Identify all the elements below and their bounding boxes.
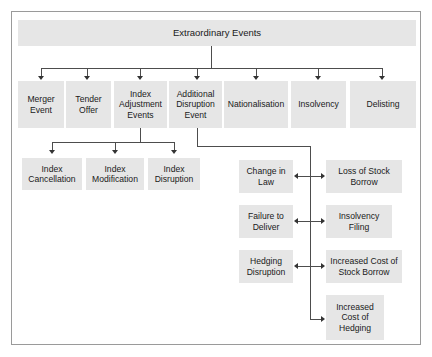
node-label: Loss of Stock Borrow (328, 166, 400, 186)
arrow-row3-left (294, 263, 298, 269)
arrow-insolvency (315, 76, 321, 80)
node-increased-cost-of-hedging: Increased Cost of Hedging (326, 295, 384, 340)
arrow-index-modification (112, 150, 118, 154)
arrow-row1-right (321, 173, 325, 179)
arrow-additional (194, 76, 200, 80)
node-index-disruption: Index Disruption (148, 158, 200, 190)
connector-index-stem (140, 128, 141, 142)
node-delisting: Delisting (350, 81, 416, 128)
connector-root-stem (211, 46, 212, 68)
node-failure-to-deliver: Failure to Deliver (239, 205, 293, 238)
node-label: Insolvency Filing (328, 211, 390, 231)
node-loss-of-stock-borrow: Loss of Stock Borrow (326, 160, 402, 193)
node-additional-disruption-event: Additional Disruption Event (169, 81, 222, 128)
node-label: Extraordinary Events (20, 27, 414, 38)
connector-row1-left (298, 176, 310, 177)
connector-additional-spine (310, 146, 311, 319)
connector-index-bus (52, 142, 175, 143)
node-index-cancellation: Index Cancellation (22, 158, 82, 190)
arrow-row4-right (321, 316, 325, 322)
node-label: Hedging Disruption (241, 256, 291, 276)
node-label: Index Modification (88, 164, 142, 184)
arrow-tender (84, 76, 90, 80)
node-insolvency: Insolvency (291, 81, 346, 128)
node-label: Insolvency (293, 99, 344, 109)
arrow-merger (38, 76, 44, 80)
node-label: Index Cancellation (24, 164, 80, 184)
arrow-index-disruption (171, 150, 177, 154)
arrow-row3-right (321, 263, 325, 269)
arrow-index-cancellation (49, 150, 55, 154)
node-label: Increased Cost of Hedging (328, 302, 382, 332)
node-tender-offer: Tender Offer (66, 81, 111, 128)
node-nationalisation: Nationalisation (224, 81, 288, 128)
node-index-adjustment-events: Index Adjustment Events (114, 81, 167, 128)
node-change-in-law: Change in Law (239, 160, 293, 193)
node-label: Index Disruption (150, 164, 198, 184)
node-label: Change in Law (241, 166, 291, 186)
node-label: Additional Disruption Event (171, 89, 220, 119)
node-increased-cost-of-stock-borrow: Increased Cost of Stock Borrow (326, 250, 402, 283)
arrow-delisting (379, 76, 385, 80)
node-insolvency-filing: Insolvency Filing (326, 205, 392, 238)
node-merger-event: Merger Event (18, 81, 64, 128)
arrow-row2-left (294, 218, 298, 224)
node-label: Delisting (352, 99, 414, 109)
connector-row2-left (298, 221, 310, 222)
node-label: Failure to Deliver (241, 211, 291, 231)
connector-root-bus (41, 68, 382, 69)
node-index-modification: Index Modification (86, 158, 144, 190)
diagram-canvas: Extraordinary Events Merger Event Tender… (0, 0, 432, 357)
node-label: Merger Event (20, 94, 62, 114)
connector-row3-left (298, 266, 310, 267)
connector-additional-elbow (197, 146, 310, 147)
connector-additional-stem (197, 128, 198, 146)
arrow-index (137, 76, 143, 80)
node-extraordinary-events: Extraordinary Events (18, 20, 416, 46)
diagram-frame: Extraordinary Events Merger Event Tender… (11, 11, 421, 345)
arrow-row2-right (321, 218, 325, 224)
node-hedging-disruption: Hedging Disruption (239, 250, 293, 283)
node-label: Index Adjustment Events (116, 89, 165, 119)
arrow-row1-left (294, 173, 298, 179)
arrow-nationalisation (253, 76, 259, 80)
node-label: Nationalisation (226, 99, 286, 109)
node-label: Tender Offer (68, 94, 109, 114)
node-label: Increased Cost of Stock Borrow (328, 256, 400, 276)
